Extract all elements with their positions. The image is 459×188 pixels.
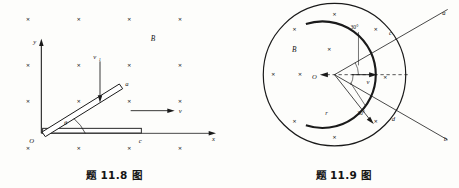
point-label-b: b bbox=[444, 135, 448, 142]
point-label-a: a bbox=[442, 9, 446, 16]
rod-end-label-a: a bbox=[125, 80, 129, 87]
angle-ticks bbox=[350, 63, 358, 85]
angle-label-upper: 30° bbox=[350, 24, 358, 30]
line-Oa bbox=[335, 9, 448, 74]
cross-mark: × bbox=[127, 145, 131, 151]
figure-11-9-drawing: × × × × × × × × × × bbox=[228, 0, 459, 160]
cross-mark: × bbox=[292, 26, 296, 32]
y-axis-arrowhead bbox=[39, 39, 44, 46]
cross-mark: × bbox=[178, 98, 182, 104]
cross-mark: × bbox=[127, 98, 131, 104]
cross-mark: × bbox=[271, 71, 275, 77]
velocity-arrow-v1 bbox=[98, 61, 103, 102]
velocity-v1-subscript: 1 bbox=[99, 57, 101, 62]
field-label-B: B bbox=[151, 34, 156, 43]
cross-mark: × bbox=[76, 62, 80, 68]
figure-sheet: × × × × × × × × × × × × × × × × bbox=[0, 0, 459, 188]
y-axis bbox=[39, 39, 44, 134]
velocity-v-arrowhead bbox=[167, 108, 174, 113]
cross-mark: × bbox=[26, 145, 30, 151]
angle-label-lower: 30° bbox=[357, 110, 365, 116]
cross-mark: × bbox=[332, 11, 336, 17]
cross-mark: × bbox=[327, 46, 331, 52]
cross-mark: × bbox=[374, 118, 378, 124]
velocity-axis-right bbox=[320, 72, 409, 77]
velocity-v-label: v bbox=[179, 107, 182, 114]
cross-mark: × bbox=[178, 16, 182, 22]
cross-mark: × bbox=[332, 134, 336, 140]
cross-mark: × bbox=[76, 16, 80, 22]
velocity-arrow-v bbox=[131, 108, 175, 113]
field-label-B-right: B bbox=[292, 45, 297, 54]
velocity-label-right: v bbox=[366, 78, 369, 85]
cross-mark: × bbox=[26, 98, 30, 104]
figure-11-8: × × × × × × × × × × × × × × × × bbox=[0, 0, 228, 188]
radius-arrowhead bbox=[367, 117, 374, 124]
radius-label-r: r bbox=[325, 109, 328, 116]
velocity-arrowhead-left bbox=[320, 72, 328, 77]
cross-mark: × bbox=[76, 98, 80, 104]
cross-mark: × bbox=[76, 145, 80, 151]
velocity-v1-label-group: v 1 bbox=[93, 53, 101, 62]
cross-mark: × bbox=[178, 62, 182, 68]
point-label-d: d bbox=[392, 115, 396, 122]
figure-11-9: × × × × × × × × × × bbox=[228, 0, 459, 188]
point-label-c: c bbox=[389, 29, 392, 36]
cross-mark: × bbox=[127, 16, 131, 22]
cross-mark: × bbox=[374, 26, 378, 32]
figure-11-9-caption: 题 11.9 图 bbox=[228, 167, 459, 182]
figure-11-8-drawing: × × × × × × × × × × × × × × × × bbox=[0, 0, 228, 160]
y-axis-label: y bbox=[32, 38, 36, 45]
cross-mark: × bbox=[298, 71, 302, 77]
rod-end-label-c: c bbox=[139, 137, 142, 144]
figure-11-8-caption: 题 11.8 图 bbox=[0, 167, 228, 182]
cross-mark: × bbox=[26, 62, 30, 68]
velocity-v1-label: v bbox=[93, 53, 96, 60]
cross-mark: × bbox=[292, 118, 296, 124]
cross-mark: × bbox=[127, 62, 131, 68]
cross-mark: × bbox=[178, 145, 182, 151]
origin-label: O bbox=[29, 137, 34, 144]
cross-mark: × bbox=[26, 16, 30, 22]
center-label-O: O bbox=[312, 73, 317, 80]
x-axis-label: x bbox=[211, 135, 215, 142]
